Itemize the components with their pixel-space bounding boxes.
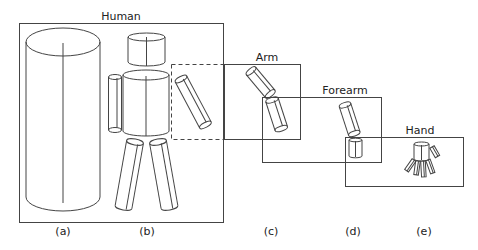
forearm-cylinder [339, 101, 361, 138]
left-arm-cylinder [109, 75, 122, 133]
forearm-selection-dashed [263, 98, 301, 140]
forearm-box [263, 98, 382, 163]
upper-arm-cylinder [245, 65, 277, 100]
panel-label-d: (d) [345, 226, 361, 237]
right-leg-cylinder [149, 138, 178, 212]
arm-box-title: Arm [256, 52, 279, 63]
whole-body-cylinder [26, 28, 100, 211]
forearm-box-title: Forearm [322, 85, 368, 96]
head-cylinder [128, 33, 165, 66]
hand-box-title: Hand [406, 125, 435, 136]
panel-label-a: (a) [55, 226, 70, 237]
finger-4-cylinder [426, 159, 435, 174]
panel-label-e: (e) [416, 226, 431, 237]
human-box-title: Human [101, 11, 141, 22]
palm-cylinder [414, 142, 429, 161]
panel-label-c: (c) [264, 226, 279, 237]
arm-selection-dashed [172, 65, 225, 140]
right-arm-cylinder [174, 74, 212, 130]
hand-block-cylinder [349, 138, 362, 158]
panel-label-b: (b) [139, 226, 155, 237]
finger-3-cylinder [421, 161, 426, 177]
arm-forearm-cylinder [265, 96, 288, 133]
torso-cylinder [123, 70, 169, 136]
thumb-cylinder [430, 146, 440, 158]
left-leg-cylinder [115, 138, 144, 212]
